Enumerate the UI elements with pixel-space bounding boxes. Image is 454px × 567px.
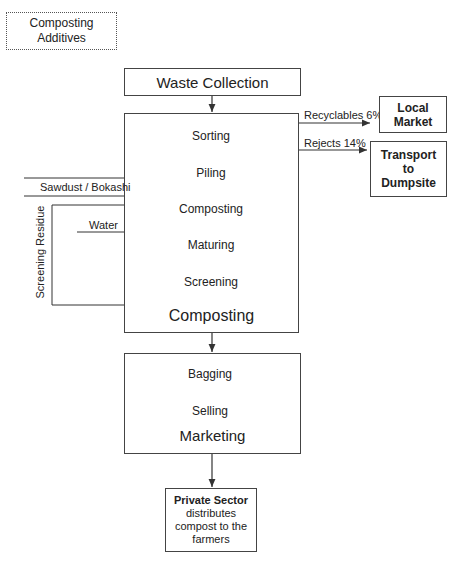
private-sector-desc1: distributes xyxy=(186,507,236,520)
transport-line1: Transport xyxy=(381,148,436,162)
step-composting: Composting xyxy=(156,202,266,216)
additives-line2: Additives xyxy=(37,31,86,46)
water-label: Water xyxy=(89,219,118,231)
local-market-box: Local Market xyxy=(379,96,447,133)
private-sector-desc3: farmers xyxy=(192,533,229,546)
screening-residue-label: Screening Residue xyxy=(34,202,46,302)
private-sector-title: Private Sector xyxy=(174,494,248,507)
waste-collection-label: Waste Collection xyxy=(157,74,269,91)
composting-stage-box xyxy=(124,113,299,333)
waste-collection-box: Waste Collection xyxy=(124,68,301,96)
private-sector-desc2: compost to the xyxy=(175,520,247,533)
step-selling: Selling xyxy=(155,404,265,418)
rejects-edge-label: Rejects 14% xyxy=(304,137,366,149)
sawdust-label: Sawdust / Bokashi xyxy=(40,181,131,193)
step-bagging: Bagging xyxy=(155,367,265,381)
step-maturing: Maturing xyxy=(156,238,266,252)
local-market-label: Local Market xyxy=(388,101,438,129)
recyclables-edge-label: Recyclables 6% xyxy=(304,109,382,121)
step-screening: Screening xyxy=(156,275,266,289)
composting-additives-box: Composting Additives xyxy=(6,12,117,50)
private-sector-box: Private Sector distributes compost to th… xyxy=(165,488,257,552)
marketing-stage-title: Marketing xyxy=(124,427,301,444)
transport-line3: Dumpsite xyxy=(381,176,436,190)
additives-line1: Composting xyxy=(29,16,93,31)
transport-line2: to xyxy=(403,162,414,176)
step-sorting: Sorting xyxy=(156,129,266,143)
step-piling: Piling xyxy=(156,166,266,180)
transport-dumpsite-box: Transport to Dumpsite xyxy=(370,141,447,197)
composting-stage-title: Composting xyxy=(124,307,299,325)
